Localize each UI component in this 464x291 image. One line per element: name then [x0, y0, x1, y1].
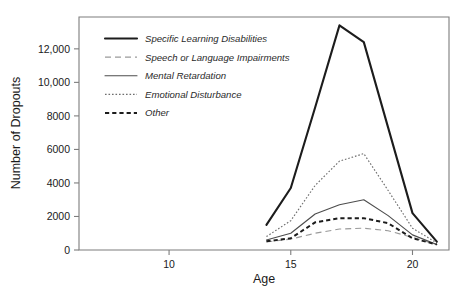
y-tick-label: 2000	[47, 210, 71, 222]
y-axis-label: Number of Dropouts	[9, 77, 23, 190]
y-tick-label: 6000	[47, 143, 71, 155]
y-tick-label: 0	[64, 244, 70, 256]
y-tick-label: 4000	[47, 177, 71, 189]
x-tick-label: 15	[285, 258, 297, 270]
legend-label: Specific Learning Disabilities	[145, 33, 267, 44]
x-tick-label: 10	[163, 258, 175, 270]
chart-figure: 0200040006000800010,00012,000 101520 Age…	[0, 0, 464, 291]
y-tick-label: 12,000	[38, 43, 70, 55]
series-line	[266, 218, 436, 244]
chart-legend: Specific Learning DisabilitiesSpeech or …	[105, 33, 290, 118]
series-lines	[266, 25, 436, 244]
x-axis-tick-labels: 101520	[163, 258, 418, 270]
y-axis-tick-labels: 0200040006000800010,00012,000	[38, 43, 70, 256]
x-axis-label: Age	[253, 272, 275, 286]
x-tick-label: 20	[407, 258, 419, 270]
series-line	[266, 25, 436, 241]
x-axis-ticks	[169, 250, 412, 255]
y-tick-label: 8000	[47, 110, 71, 122]
y-axis-ticks	[74, 49, 79, 250]
y-tick-label: 10,000	[38, 76, 70, 88]
legend-label: Mental Retardation	[145, 70, 226, 81]
legend-label: Speech or Language Impairments	[145, 52, 290, 63]
series-line	[266, 154, 436, 243]
legend-label: Other	[145, 107, 170, 118]
legend-label: Emotional Disturbance	[145, 89, 242, 100]
